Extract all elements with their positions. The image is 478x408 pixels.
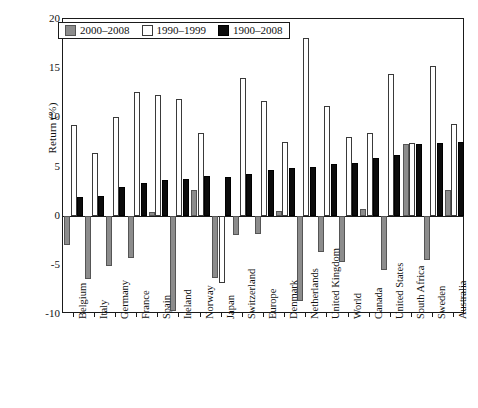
bar-sweden-series-0 [424, 216, 430, 260]
bar-italy-series-2 [98, 196, 104, 216]
x-tick-label: Norway [204, 285, 215, 319]
x-tick-mark [284, 313, 285, 317]
x-tick-mark [157, 313, 158, 317]
bar-group [276, 19, 295, 312]
legend-label: 2000–2008 [80, 25, 130, 36]
x-tick-label: Europe [267, 289, 278, 319]
bar-norway-series-0 [191, 190, 197, 216]
bar-ireland-series-1 [176, 99, 182, 216]
bar-united-states-series-1 [388, 74, 394, 216]
y-tick-label: 10 [0, 110, 68, 122]
bar-belgium-series-1 [71, 125, 77, 215]
bar-spain-series-2 [162, 180, 168, 215]
legend-swatch-icon [65, 25, 76, 36]
legend-item-0: 2000–2008 [65, 25, 130, 36]
x-tick-mark [115, 313, 116, 317]
bar-united-kingdom-series-2 [331, 164, 337, 216]
legend-swatch-icon [142, 25, 153, 36]
bar-australia-series-2 [458, 142, 464, 216]
bar-spain-series-0 [149, 212, 155, 216]
x-tick-mark [411, 313, 412, 317]
y-tick-label: 5 [0, 160, 68, 172]
x-tick-mark [263, 313, 264, 317]
x-tick-mark [453, 313, 454, 317]
bar-ireland-series-2 [183, 179, 189, 215]
bar-united-states-series-2 [394, 155, 400, 216]
bar-switzerland-series-0 [233, 216, 239, 236]
y-tick-label: 0 [0, 209, 68, 221]
bar-germany-series-1 [113, 117, 119, 215]
x-tick-mark [200, 313, 201, 317]
bar-group [170, 19, 189, 312]
bar-group [85, 19, 104, 312]
bar-sweden-series-2 [437, 143, 443, 216]
x-tick-mark [326, 313, 327, 317]
x-tick-label: United Kingdom [330, 248, 341, 319]
bar-canada-series-0 [360, 209, 366, 216]
bar-germany-series-0 [106, 216, 112, 266]
bar-italy-series-0 [85, 216, 91, 279]
bar-france-series-0 [128, 216, 134, 258]
legend-swatch-icon [218, 25, 229, 36]
x-tick-mark [390, 313, 391, 317]
bar-world-series-2 [352, 163, 358, 216]
bar-denmark-series-0 [276, 211, 282, 216]
x-tick-mark [242, 313, 243, 317]
legend-label: 1900–2008 [233, 25, 283, 36]
bar-group [445, 19, 464, 312]
bar-japan-series-1 [219, 216, 225, 283]
bar-world-series-1 [346, 137, 352, 216]
bar-group [191, 19, 210, 312]
x-tick-label: Japan [225, 295, 236, 319]
x-tick-mark [369, 313, 370, 317]
x-tick-mark [221, 313, 222, 317]
bar-belgium-series-2 [77, 197, 83, 216]
bar-norway-series-2 [204, 176, 210, 215]
bar-australia-series-0 [445, 190, 451, 216]
chart-figure: Return (%) 20151050-5-10 BelgiumItalyGer… [0, 0, 478, 408]
bar-denmark-series-1 [282, 142, 288, 216]
x-tick-label: Germany [119, 280, 130, 319]
bar-canada-series-1 [367, 133, 373, 216]
bar-belgium-series-0 [64, 216, 70, 246]
bar-spain-series-1 [155, 95, 161, 216]
bar-switzerland-series-1 [240, 78, 246, 216]
bar-south-africa-series-0 [403, 144, 409, 216]
y-tick-label: 15 [0, 61, 68, 73]
x-tick-label: France [140, 290, 151, 319]
x-tick-label: Australia [457, 281, 468, 320]
y-tick-label: -5 [0, 258, 68, 270]
legend-item-1: 1990–1999 [142, 25, 207, 36]
x-tick-label: United States [394, 263, 405, 319]
x-tick-label: Italy [98, 300, 109, 319]
bar-japan-series-0 [212, 216, 218, 278]
x-tick-mark [94, 313, 95, 317]
x-tick-label: World [352, 293, 363, 319]
bar-netherlands-series-2 [310, 167, 316, 215]
legend-label: 1990–1999 [157, 25, 207, 36]
bar-france-series-2 [141, 183, 147, 215]
x-tick-mark [178, 313, 179, 317]
legend-item-2: 1900–2008 [218, 25, 283, 36]
x-tick-label: Netherlands [309, 268, 320, 319]
bar-group [149, 19, 168, 312]
bar-group [424, 19, 443, 312]
bar-switzerland-series-2 [246, 174, 252, 215]
bar-europe-series-1 [261, 101, 267, 216]
x-tick-label: Spain [161, 295, 172, 319]
bar-south-africa-series-2 [416, 144, 422, 216]
x-tick-mark [73, 313, 74, 317]
bar-group [64, 19, 83, 312]
bar-germany-series-2 [119, 187, 125, 216]
bar-italy-series-1 [92, 153, 98, 216]
bar-europe-series-2 [268, 170, 274, 215]
bar-group [360, 19, 379, 312]
bar-europe-series-0 [255, 216, 261, 235]
bar-norway-series-1 [198, 133, 204, 216]
bar-united-kingdom-series-0 [318, 216, 324, 252]
bar-france-series-1 [134, 92, 140, 216]
bar-netherlands-series-1 [303, 38, 309, 216]
bar-south-africa-series-1 [409, 143, 415, 216]
bar-united-kingdom-series-1 [324, 106, 330, 216]
bar-japan-series-2 [225, 177, 231, 215]
